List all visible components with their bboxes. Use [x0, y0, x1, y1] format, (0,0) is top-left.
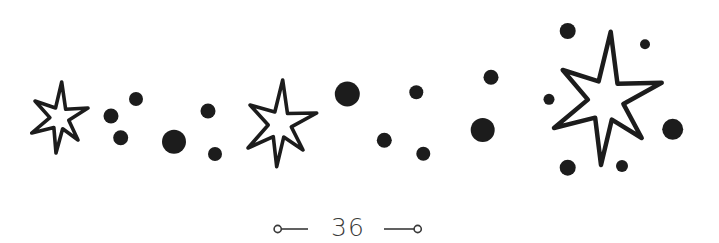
- dot-icon: [484, 70, 499, 85]
- dot-icon: [544, 94, 555, 105]
- dot-icon: [616, 160, 628, 172]
- dot-icon: [201, 104, 216, 119]
- dot-icon: [113, 130, 128, 145]
- dot-icon: [416, 147, 430, 161]
- dot-icon: [471, 118, 495, 142]
- dot-icon: [662, 119, 683, 140]
- star-dot-decoration: [0, 0, 719, 243]
- dot-icon: [560, 160, 576, 176]
- star-small-left-icon: [32, 82, 88, 153]
- dot-icon: [377, 133, 392, 148]
- star-large-right-icon: [554, 32, 662, 165]
- dot-icon: [409, 85, 423, 99]
- star-medium-middle-icon: [248, 80, 317, 167]
- dot-icon: [640, 39, 650, 49]
- page-number: 36: [0, 213, 696, 242]
- dots: [104, 23, 684, 176]
- dot-icon: [162, 130, 186, 154]
- dot-icon: [560, 23, 576, 39]
- dot-icon: [335, 82, 360, 107]
- dot-icon: [104, 109, 119, 124]
- dot-icon: [208, 147, 222, 161]
- dot-icon: [129, 92, 143, 106]
